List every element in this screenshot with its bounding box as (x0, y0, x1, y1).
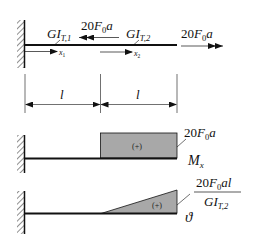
torque-load-end: 20F0a (181, 26, 223, 46)
torque-load-middle: 20F0a (79, 18, 119, 38)
fixed-support-twist (17, 191, 25, 234)
svg-text:20F0al: 20F0al (196, 175, 232, 192)
svg-text:20F0a: 20F0a (81, 18, 113, 35)
torque-value-label: 20F0a (184, 125, 216, 142)
svg-text:GIT,2: GIT,2 (204, 194, 229, 211)
svg-text:x2: x2 (133, 49, 141, 59)
torque-diagram: (+) 20F0a Mx (17, 125, 216, 173)
dimension-label-1: l (60, 87, 64, 102)
fixed-support-mx (17, 135, 25, 173)
fixed-support-top (17, 20, 25, 68)
shaft-system: x1 x2 GIT,1 GIT,2 20F0 (17, 18, 223, 68)
svg-text:x1: x1 (58, 48, 66, 58)
x1-axis: x1 (25, 48, 66, 58)
twist-sign: (+) (152, 201, 162, 210)
svg-text:20F0a: 20F0a (181, 26, 213, 43)
dimension-label-2: l (136, 87, 140, 102)
x2-sub: 2 (138, 53, 141, 59)
twist-value-label: 20F0al GIT,2 (194, 175, 241, 211)
torque-sign: (+) (132, 142, 142, 151)
x1-sub: 1 (63, 52, 66, 58)
torsion-diagram-figure: x1 x2 GIT,1 GIT,2 20F0 (0, 0, 254, 249)
dimension-lines: l l (25, 74, 177, 113)
x2-axis: x2 (100, 49, 141, 59)
stiffness-label-1: GIT,1 (47, 26, 71, 45)
twist-rate-diagram: (+) 20F0al GIT,2 ϑ (17, 175, 241, 234)
twist-diagram-name: ϑ (185, 209, 194, 225)
stiffness-label-2: GIT,2 (126, 26, 151, 45)
twist-diagram-area (101, 190, 177, 214)
torque-diagram-name: Mx (187, 153, 204, 170)
